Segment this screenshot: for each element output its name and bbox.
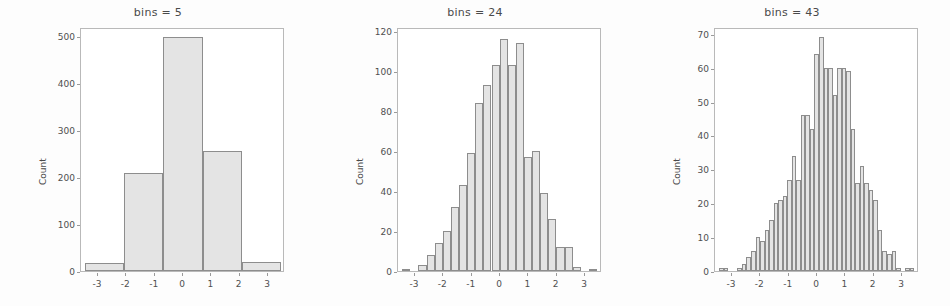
x-tick-label: -3	[727, 279, 736, 289]
histogram-bar	[548, 219, 556, 271]
y-tick-mark	[711, 136, 714, 137]
chart-panel-bins-43: bins = 43 Count 010203040506070 -3-2-101…	[634, 0, 950, 306]
y-tick-mark	[77, 37, 80, 38]
x-tick-mark	[154, 273, 155, 276]
y-tick-mark	[77, 272, 80, 273]
y-tick-mark	[711, 103, 714, 104]
x-tick-label: 0	[813, 279, 819, 289]
histogram-bar	[532, 151, 540, 271]
x-tick-label: 3	[898, 279, 904, 289]
y-tick-label: 40	[674, 131, 709, 141]
y-tick-label: 100	[40, 220, 75, 230]
x-tick-mark	[267, 273, 268, 276]
y-tick-mark	[711, 238, 714, 239]
plot-area	[397, 28, 601, 272]
x-tick-mark	[788, 273, 789, 276]
histogram-figure: bins = 5 Count 0100200300400500 -3-2-101…	[0, 0, 950, 306]
x-tick-label: -2	[121, 279, 130, 289]
y-tick-mark	[394, 32, 397, 33]
x-tick-label: 2	[870, 279, 876, 289]
histogram-bar	[427, 255, 435, 271]
x-tick-mark	[731, 273, 732, 276]
y-tick-label: 200	[40, 173, 75, 183]
y-tick-label: 0	[40, 267, 75, 277]
y-tick-mark	[711, 35, 714, 36]
histogram-bar	[556, 247, 564, 271]
x-tick-mark	[584, 273, 585, 276]
y-tick-label: 400	[40, 79, 75, 89]
x-tick-label: 1	[841, 279, 847, 289]
histogram-bar	[443, 231, 451, 271]
x-tick-mark	[182, 273, 183, 276]
x-tick-mark	[125, 273, 126, 276]
histogram-bar	[163, 37, 202, 271]
y-tick-label: 20	[357, 227, 392, 237]
y-tick-label: 0	[357, 267, 392, 277]
x-tick-label: -1	[783, 279, 792, 289]
x-tick-mark	[844, 273, 845, 276]
x-tick-label: 2	[553, 279, 559, 289]
y-tick-label: 60	[357, 147, 392, 157]
histogram-bar	[524, 157, 532, 271]
histogram-bar	[492, 65, 500, 271]
histogram-bar	[203, 151, 242, 271]
x-tick-label: 1	[524, 279, 530, 289]
histogram-bar	[451, 207, 459, 271]
y-tick-mark	[394, 112, 397, 113]
histogram-bar	[896, 268, 901, 271]
bar-series	[398, 29, 600, 271]
chart-title: bins = 24	[317, 6, 633, 19]
y-tick-mark	[394, 152, 397, 153]
x-tick-mark	[816, 273, 817, 276]
histogram-bar	[508, 65, 516, 271]
y-tick-label: 60	[674, 64, 709, 74]
plot-area	[714, 28, 918, 272]
histogram-bar	[435, 243, 443, 271]
y-tick-mark	[394, 192, 397, 193]
y-tick-label: 80	[357, 107, 392, 117]
histogram-bar	[565, 247, 573, 271]
x-tick-label: -2	[755, 279, 764, 289]
y-tick-label: 120	[357, 27, 392, 37]
y-tick-label: 70	[674, 30, 709, 40]
y-axis-label: Count	[355, 158, 365, 185]
x-tick-label: -2	[438, 279, 447, 289]
y-tick-mark	[394, 232, 397, 233]
y-tick-mark	[77, 225, 80, 226]
histogram-bar	[500, 39, 508, 271]
y-tick-label: 100	[357, 67, 392, 77]
y-tick-mark	[711, 272, 714, 273]
y-tick-mark	[711, 170, 714, 171]
y-tick-label: 50	[674, 98, 709, 108]
x-tick-label: -1	[466, 279, 475, 289]
histogram-bar	[589, 269, 597, 271]
x-tick-label: -3	[93, 279, 102, 289]
histogram-bar	[242, 262, 281, 271]
x-tick-label: 3	[581, 279, 587, 289]
y-tick-mark	[77, 84, 80, 85]
x-tick-label: 0	[179, 279, 185, 289]
x-tick-mark	[901, 273, 902, 276]
x-tick-mark	[414, 273, 415, 276]
chart-panel-bins-5: bins = 5 Count 0100200300400500 -3-2-101…	[0, 0, 316, 306]
histogram-bar	[402, 269, 410, 271]
y-tick-mark	[711, 204, 714, 205]
y-tick-mark	[394, 72, 397, 73]
y-tick-label: 20	[674, 199, 709, 209]
histogram-bar	[475, 103, 483, 271]
x-tick-mark	[499, 273, 500, 276]
y-tick-mark	[394, 272, 397, 273]
x-tick-mark	[527, 273, 528, 276]
bar-series	[715, 29, 917, 271]
histogram-bar	[418, 265, 426, 271]
y-tick-label: 10	[674, 233, 709, 243]
y-tick-mark	[77, 178, 80, 179]
bar-series	[81, 29, 283, 271]
chart-panel-bins-24: bins = 24 Count 020406080100120 -3-2-101…	[317, 0, 633, 306]
histogram-bar	[85, 263, 124, 271]
y-tick-label: 300	[40, 126, 75, 136]
chart-title: bins = 43	[634, 6, 950, 19]
x-tick-mark	[873, 273, 874, 276]
y-tick-label: 30	[674, 165, 709, 175]
x-tick-label: 3	[264, 279, 270, 289]
